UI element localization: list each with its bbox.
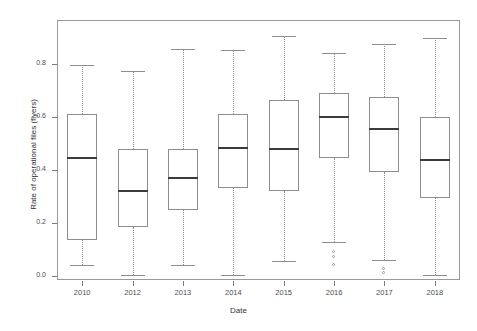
upper-whisker — [233, 50, 234, 114]
median-line — [118, 190, 148, 192]
x-tick-label: 2010 — [62, 288, 102, 297]
upper-whisker — [82, 65, 83, 113]
x-tick-label: 2013 — [163, 288, 203, 297]
x-tick-label: 2014 — [213, 288, 253, 297]
box-iqr — [420, 117, 450, 198]
x-tick-mark — [133, 281, 134, 286]
y-tick-label: 0.8 — [0, 59, 46, 66]
lower-whisker — [435, 198, 436, 275]
x-tick-label: 2015 — [264, 288, 304, 297]
boxplot-figure: 0.00.20.40.60.8 201020122013201420152016… — [0, 0, 477, 331]
upper-whisker — [284, 36, 285, 100]
median-line — [218, 147, 248, 149]
median-line — [269, 148, 299, 150]
lower-whisker-cap — [272, 261, 296, 262]
upper-whisker — [183, 49, 184, 149]
y-tick-label: 0.4 — [0, 165, 46, 172]
y-tick-mark — [52, 223, 57, 224]
y-tick-label: 0.2 — [0, 218, 46, 225]
x-tick-mark — [82, 281, 83, 286]
y-tick-mark — [52, 170, 57, 171]
lower-whisker-cap — [171, 265, 195, 266]
box-iqr — [369, 97, 399, 172]
y-tick-mark — [52, 64, 57, 65]
box-iqr — [269, 100, 299, 191]
median-line — [67, 157, 97, 159]
y-tick-mark — [52, 276, 57, 277]
y-tick-mark — [52, 117, 57, 118]
upper-whisker — [435, 38, 436, 118]
lower-whisker-cap — [372, 260, 396, 261]
box-iqr — [118, 149, 148, 227]
x-tick-label: 2017 — [364, 288, 404, 297]
median-line — [420, 159, 450, 161]
outlier-point — [332, 263, 335, 266]
upper-whisker-cap — [423, 38, 447, 39]
upper-whisker-cap — [171, 49, 195, 50]
box-iqr — [319, 93, 349, 158]
x-tick-label: 2018 — [415, 288, 455, 297]
x-axis-title: Date — [0, 306, 477, 315]
lower-whisker-cap — [423, 275, 447, 276]
x-tick-label: 2016 — [314, 288, 354, 297]
lower-whisker-cap — [70, 265, 94, 266]
upper-whisker — [334, 53, 335, 93]
y-axis-title: Rate of operational files (flyers) — [29, 75, 38, 235]
x-tick-mark — [284, 281, 285, 286]
lower-whisker — [233, 188, 234, 275]
lower-whisker-cap — [322, 242, 346, 243]
x-tick-mark — [435, 281, 436, 286]
upper-whisker-cap — [221, 50, 245, 51]
y-tick-label: 0.0 — [0, 271, 46, 278]
box-iqr — [168, 149, 198, 210]
lower-whisker — [384, 172, 385, 260]
upper-whisker-cap — [70, 65, 94, 66]
lower-whisker-cap — [121, 275, 145, 276]
lower-whisker — [183, 210, 184, 265]
median-line — [168, 177, 198, 179]
lower-whisker — [334, 158, 335, 241]
x-tick-mark — [233, 281, 234, 286]
y-tick-label: 0.6 — [0, 112, 46, 119]
median-line — [369, 128, 399, 130]
upper-whisker-cap — [322, 53, 346, 54]
lower-whisker — [133, 227, 134, 275]
x-tick-mark — [183, 281, 184, 286]
upper-whisker-cap — [272, 36, 296, 37]
median-line — [319, 116, 349, 118]
upper-whisker-cap — [121, 71, 145, 72]
upper-whisker — [133, 71, 134, 149]
upper-whisker-cap — [372, 44, 396, 45]
box-iqr — [67, 114, 97, 240]
upper-whisker — [384, 44, 385, 97]
x-tick-mark — [384, 281, 385, 286]
x-tick-label: 2012 — [113, 288, 153, 297]
lower-whisker — [284, 191, 285, 262]
lower-whisker-cap — [221, 275, 245, 276]
lower-whisker — [82, 240, 83, 265]
x-tick-mark — [334, 281, 335, 286]
box-iqr — [218, 114, 248, 188]
